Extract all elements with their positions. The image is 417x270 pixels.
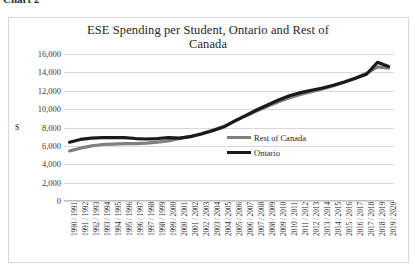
series-lines	[64, 54, 394, 201]
legend-label: Ontario	[254, 148, 280, 158]
chart-container: ESE Spending per Student, Ontario and Re…	[8, 17, 409, 263]
legend-item[interactable]: Rest of Canada	[227, 130, 347, 145]
x-axis-tick: 2004 / 2005	[218, 202, 229, 262]
figure-caption: Chart 2	[0, 0, 417, 16]
legend-swatch-icon	[227, 136, 251, 140]
x-axis-tick: 2000 / 2001	[174, 202, 185, 262]
y-axis-tick-label: 10,000	[38, 104, 61, 114]
y-axis-tick-label: 6,000	[42, 141, 61, 151]
x-axis-tick: 2002 / 2003	[196, 202, 207, 262]
y-axis-tick-label: 14,000	[38, 67, 61, 77]
x-axis-tick: 1999 / 2000	[163, 202, 174, 262]
legend-item[interactable]: Ontario	[227, 145, 347, 160]
legend-swatch-icon	[227, 151, 251, 155]
x-axis-tick: 2014 / 2015	[328, 202, 339, 262]
x-axis-tick: 2011 / 2012	[295, 202, 306, 262]
x-axis-tick: 2012 / 2013	[306, 202, 317, 262]
x-axis-tick: 2008 / 2009	[262, 202, 273, 262]
x-axis-tick: 2010 / 2011	[284, 202, 295, 262]
y-axis-tick-label: 0	[57, 196, 61, 206]
chart-title-line-2: Canada	[43, 37, 373, 51]
x-axis-tick: 1998 / 1999	[152, 202, 163, 262]
x-axis-tick: 2006 / 2007	[240, 202, 251, 262]
chart-screenshot: Chart 2 ESE Spending per Student, Ontari…	[0, 0, 417, 270]
x-axis-tick: 2003 / 2004	[207, 202, 218, 262]
x-axis-tick: 2007 / 2008	[251, 202, 262, 262]
x-axis-tick: 1996 / 1997	[130, 202, 141, 262]
x-axis-tick: 2009 / 2010	[273, 202, 284, 262]
x-axis-tick: 2019 / 2020	[383, 202, 394, 262]
x-axis-tick: 1994 / 1995	[108, 202, 119, 262]
plot-area	[64, 54, 394, 201]
legend-label: Rest of Canada	[254, 133, 306, 143]
x-axis-tick-labels: 1990 / 19911991 / 19921992 / 19931993 / …	[64, 202, 394, 264]
y-axis-tick-label: 16,000	[38, 49, 61, 59]
figure-caption-label: Chart 2	[3, 0, 39, 5]
x-axis-tick: 2016 / 2017	[350, 202, 361, 262]
x-axis-tick: 1992 / 1993	[86, 202, 97, 262]
y-axis-tick-label: 2,000	[42, 178, 61, 188]
y-axis-tick-label: 4,000	[42, 159, 61, 169]
y-axis-tick-label: 8,000	[42, 123, 61, 133]
x-axis-tick: 2005 / 2006	[229, 202, 240, 262]
y-axis-tick-labels: 16,00014,00012,00010,0008,0006,0004,0002…	[17, 54, 61, 201]
x-axis-tick: 2001 / 2002	[185, 202, 196, 262]
x-axis-tick: 2017 / 2018	[361, 202, 372, 262]
x-axis-tick: 1997 / 1998	[141, 202, 152, 262]
x-axis-tick: 2013 / 2014	[317, 202, 328, 262]
y-axis-tick-label: 12,000	[38, 86, 61, 96]
x-axis-tick: 1991 / 1992	[75, 202, 86, 262]
x-axis-tick: 1995 / 1996	[119, 202, 130, 262]
x-axis-tick: 2015 / 2016	[339, 202, 350, 262]
x-axis-tick: 1990 / 1991	[64, 202, 75, 262]
x-axis-tick-label: 2019 / 2020	[389, 202, 398, 236]
chart-legend: Rest of CanadaOntario	[227, 130, 347, 160]
chart-title: ESE Spending per Student, Ontario and Re…	[43, 23, 373, 51]
chart-title-line-1: ESE Spending per Student, Ontario and Re…	[43, 23, 373, 37]
x-axis-tick: 1993 / 1994	[97, 202, 108, 262]
x-axis-tick: 2018 / 2019	[372, 202, 383, 262]
